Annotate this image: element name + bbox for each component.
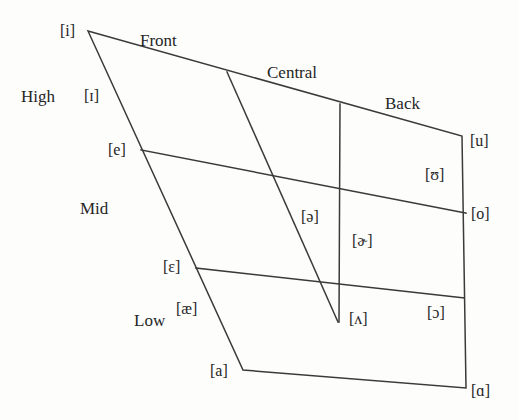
vowel-symbol: [ɚ] — [352, 233, 373, 249]
mid-upper-horizontal-line — [141, 150, 466, 213]
region-label-high: High — [21, 88, 55, 105]
vowel-symbol: [u] — [470, 133, 489, 149]
region-label-back: Back — [385, 95, 420, 112]
vowel-symbol: [æ] — [176, 301, 197, 317]
vowel-symbol: [ʌ] — [349, 311, 368, 327]
vowel-symbol: [i] — [60, 23, 75, 39]
region-label-front: Front — [140, 32, 177, 49]
vowel-symbol: [a] — [210, 363, 228, 379]
vowel-symbol: [ɛ] — [163, 259, 180, 275]
vowel-symbol: [ə] — [301, 209, 319, 225]
vowel-chart-diagram: [i][ɪ][e][ɛ][æ][a][ə][ɚ][ʌ][u][ʊ][o][ɔ][… — [0, 0, 519, 420]
vowel-symbol: [ɑ] — [471, 383, 490, 399]
central-diagonal-line — [227, 72, 338, 322]
vowel-trapezoid-outline — [88, 31, 466, 388]
region-label-central: Central — [267, 64, 317, 81]
mid-lower-horizontal-line — [196, 268, 464, 298]
vowel-symbol: [e] — [108, 142, 126, 158]
back-vertical-line — [339, 104, 340, 322]
vowel-symbol: [o] — [471, 206, 490, 222]
vowel-symbol: [ʊ] — [425, 167, 444, 183]
vowel-symbol: [ɪ] — [84, 88, 99, 104]
vowel-symbol: [ɔ] — [427, 305, 445, 321]
vowel-quadrilateral-svg — [0, 0, 519, 420]
region-label-mid: Mid — [80, 200, 108, 217]
region-label-low: Low — [134, 312, 165, 329]
